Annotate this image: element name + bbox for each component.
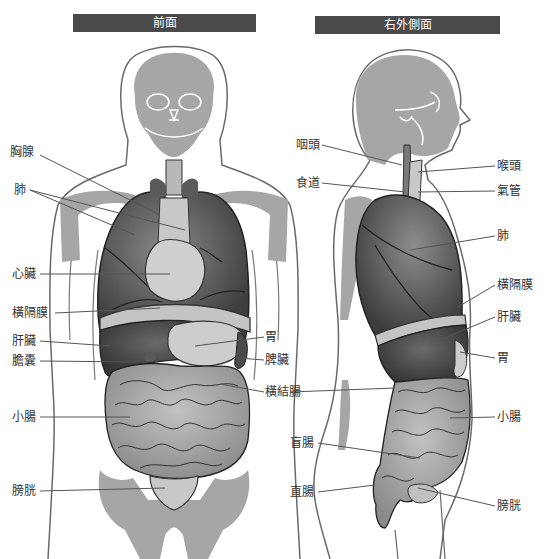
side-figure	[314, 50, 472, 559]
label-cecum: 盲腸	[290, 436, 314, 450]
label-transverse-colon: 橫結腸	[265, 385, 301, 399]
label-thymus: 胸腺	[10, 145, 34, 159]
label-side-stomach: 胃	[497, 351, 509, 365]
label-pharynx: 咽頭	[296, 138, 320, 152]
label-liver: 肝臟	[12, 334, 36, 348]
front-intestines	[105, 364, 250, 479]
label-rectum: 直腸	[290, 485, 314, 499]
front-gallbladder	[144, 354, 156, 362]
label-lungs: 肺	[14, 183, 26, 197]
side-trachea	[408, 160, 422, 200]
label-trachea: 氣管	[497, 184, 521, 198]
label-stomach: 胃	[265, 330, 277, 344]
label-side-small-intestine: 小腸	[497, 410, 521, 424]
label-heart: 心臟	[12, 267, 36, 281]
label-larynx: 喉頭	[497, 159, 521, 173]
label-gallbladder: 膽囊	[12, 354, 36, 368]
label-small-intestine: 小腸	[12, 410, 36, 424]
label-diaphragm: 橫隔膜	[12, 306, 48, 320]
label-side-bladder: 膀胱	[497, 499, 521, 513]
front-heart	[145, 240, 204, 302]
label-side-lung: 肺	[497, 229, 509, 243]
label-esophagus: 食道	[296, 176, 320, 190]
label-side-liver: 肝臟	[497, 310, 521, 324]
front-thymus-mediastinum	[158, 198, 190, 245]
front-figure	[48, 47, 300, 559]
label-bladder: 膀胱	[12, 484, 36, 498]
label-spleen: 脾臟	[265, 353, 289, 367]
front-stomach	[168, 321, 244, 366]
front-trachea	[166, 160, 182, 195]
anatomy-illustration	[0, 0, 547, 559]
label-side-diaphragm: 橫隔膜	[497, 278, 533, 292]
